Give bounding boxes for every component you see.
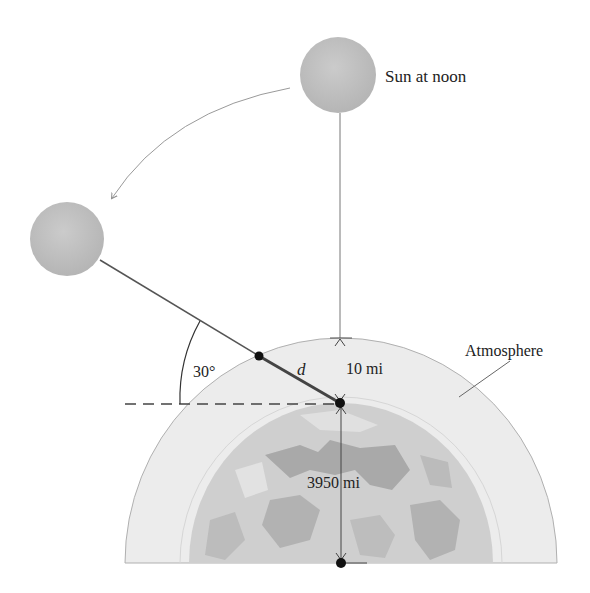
atmosphere-label: Atmosphere — [465, 342, 543, 360]
earth-center-dot — [336, 558, 346, 568]
sun-motion-arrow — [112, 88, 290, 198]
sun-noon-label: Sun at noon — [385, 67, 467, 86]
diagram-canvas: Sun at noon 30° d 10 mi 3950 mi Atmosphe… — [0, 0, 590, 593]
angle-label: 30° — [193, 363, 215, 380]
atmosphere-leader-line — [459, 361, 510, 397]
atmosphere-thickness-label: 10 mi — [346, 360, 383, 377]
atmosphere-entry-dot — [255, 352, 264, 361]
sun-angled-icon — [30, 202, 104, 276]
slanted-sunbeam — [100, 260, 259, 356]
earth-radius-label: 3950 mi — [307, 474, 360, 491]
sun-noon-icon — [300, 37, 376, 113]
distance-label: d — [297, 360, 306, 379]
observer-dot — [335, 398, 345, 408]
